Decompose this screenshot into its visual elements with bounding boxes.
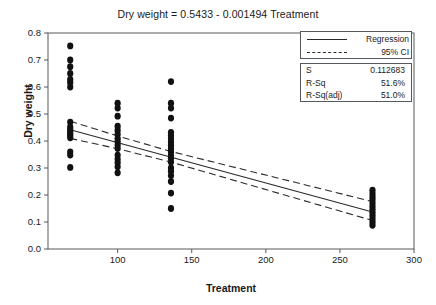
data-point <box>67 84 73 91</box>
data-point <box>168 172 174 179</box>
data-point <box>67 70 73 77</box>
statistics-box: S 0.112683 R-Sq 51.6% R-Sq(adj) 51.0% <box>300 63 412 102</box>
legend-entry-ci: 95% CI <box>301 45 413 59</box>
data-point <box>369 222 375 229</box>
y-tick-label: 0.1 <box>7 216 41 227</box>
legend-label-regression: Regression <box>366 32 409 46</box>
stat-value-rsq: 51.6% <box>381 77 405 90</box>
stat-value-rsq-adj: 51.0% <box>381 89 405 102</box>
y-tick-label: 0.7 <box>7 54 41 65</box>
legend-label-ci: 95% CI <box>381 45 409 59</box>
data-point <box>168 78 174 85</box>
legend-line-solid <box>307 39 347 40</box>
x-tick-label: 200 <box>246 254 286 265</box>
data-point <box>67 63 73 70</box>
data-point <box>67 134 73 141</box>
stat-key-rsq: R-Sq <box>306 77 325 90</box>
data-point <box>67 164 73 171</box>
legend-entry-regression: Regression <box>301 32 413 46</box>
stat-row-rsq-adj: R-Sq(adj) 51.0% <box>301 89 413 102</box>
data-point <box>115 145 121 152</box>
data-point <box>115 169 121 176</box>
data-point <box>168 115 174 122</box>
data-point <box>67 43 73 50</box>
x-tick-label: 250 <box>320 254 360 265</box>
data-point <box>115 105 121 112</box>
x-tick-label: 150 <box>172 254 212 265</box>
y-tick-label: 0.0 <box>7 243 41 254</box>
data-point <box>67 152 73 159</box>
y-tick-label: 0.2 <box>7 189 41 200</box>
y-tick-label: 0.8 <box>7 27 41 38</box>
data-point <box>168 105 174 112</box>
legend-line-dashed <box>307 52 347 53</box>
stat-row-rsq: R-Sq 51.6% <box>301 77 413 90</box>
data-point <box>168 159 174 166</box>
stat-key-s: S <box>306 64 312 77</box>
y-tick-label: 0.4 <box>7 135 41 146</box>
data-point <box>115 163 121 170</box>
stat-row-s: S 0.112683 <box>301 64 413 77</box>
data-point <box>67 57 73 64</box>
stat-value-s: 0.112683 <box>370 64 405 77</box>
data-point <box>168 190 174 197</box>
chart-figure: Dry weight = 0.5433 - 0.001494 Treatment… <box>0 0 436 305</box>
x-tick-label: 300 <box>394 254 434 265</box>
y-tick-label: 0.3 <box>7 162 41 173</box>
legend-box: Regression 95% CI <box>300 31 412 59</box>
data-point <box>168 178 174 185</box>
y-tick-label: 0.5 <box>7 108 41 119</box>
x-tick-label: 100 <box>98 254 138 265</box>
data-point <box>115 113 121 120</box>
data-point <box>168 205 174 212</box>
y-tick-label: 0.6 <box>7 81 41 92</box>
stat-key-rsq-adj: R-Sq(adj) <box>306 89 342 102</box>
